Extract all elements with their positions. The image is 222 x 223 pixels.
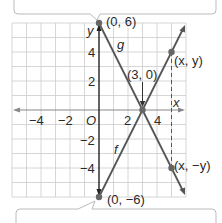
y-tick-label: 4 bbox=[88, 46, 95, 59]
point-label-x-y: (x, y) bbox=[174, 54, 203, 67]
x-tick-label: 2 bbox=[124, 114, 131, 127]
x-axis-label: x bbox=[173, 96, 180, 109]
line-f-label: f bbox=[114, 143, 118, 156]
line-g-arrow-icon bbox=[180, 188, 186, 196]
line-g-label: g bbox=[117, 38, 124, 51]
point-3-0 bbox=[139, 107, 145, 113]
point-0-neg6 bbox=[96, 194, 102, 200]
vertex-pointer bbox=[140, 82, 145, 107]
y-tick-label: −2 bbox=[80, 134, 95, 147]
y-axis-label: y bbox=[87, 24, 94, 37]
point-label-0-neg6: (0, −6) bbox=[107, 193, 145, 206]
line-f-arrow-icon bbox=[180, 25, 186, 33]
coordinate-graph bbox=[0, 0, 222, 223]
point-0-6 bbox=[96, 20, 102, 26]
x-tick-label: 4 bbox=[154, 114, 161, 127]
origin-label: O bbox=[86, 114, 96, 127]
y-tick-label: 2 bbox=[88, 75, 95, 88]
x-tick-label: −2 bbox=[58, 114, 73, 127]
point-label-x-neg-y: (x, −y) bbox=[174, 159, 210, 172]
y-tick-label: −4 bbox=[80, 162, 95, 175]
x-axis-left-arrow-icon bbox=[13, 108, 20, 113]
x-tick-label: −4 bbox=[29, 114, 44, 127]
point-label-3-0: (3, 0) bbox=[127, 68, 157, 81]
point-label-0-6: (0, 6) bbox=[106, 15, 136, 28]
